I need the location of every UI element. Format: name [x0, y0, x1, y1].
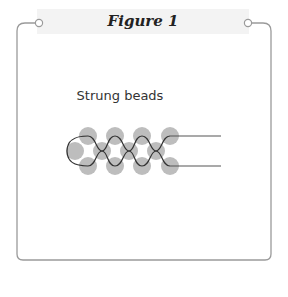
figure-frame: [0, 0, 288, 297]
diagram-label: Strung beads: [60, 88, 180, 103]
beads-diagram: [66, 127, 221, 175]
figure-title: Figure 1: [37, 9, 249, 34]
